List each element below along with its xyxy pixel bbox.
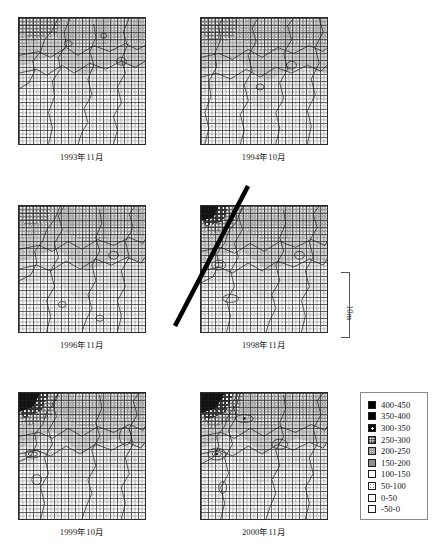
legend-swatch-icon <box>368 470 376 478</box>
legend-label: 100-150 <box>381 469 410 479</box>
panel-caption-1994: 1994年10月 <box>200 150 328 162</box>
legend-label: 50-100 <box>381 481 406 491</box>
map-canvas-1996 <box>18 205 146 333</box>
contour-map-figure: 1993年11月 1994年10月 <box>0 0 436 559</box>
legend-label: 250-300 <box>381 435 410 445</box>
legend-swatch-icon <box>368 459 376 467</box>
legend-item: 250-300 <box>368 434 420 446</box>
map-panel-1994: 1994年10月 <box>200 17 328 145</box>
legend-label: 350-400 <box>381 411 410 421</box>
legend-item: 0-50 <box>368 492 420 504</box>
legend-label: -50-0 <box>381 504 400 514</box>
legend-swatch-icon <box>368 494 376 502</box>
legend-item: 100-150 <box>368 469 420 481</box>
panel-caption-2000: 2000年11月 <box>200 525 328 537</box>
legend-item: 350-400 <box>368 411 420 423</box>
contour-lines <box>19 393 145 519</box>
map-panel-1996: 1996年11月 <box>18 205 146 333</box>
map-canvas-1993 <box>18 17 146 145</box>
map-panel-2000: 2000年11月 <box>200 392 328 520</box>
map-canvas-1994 <box>200 17 328 145</box>
map-canvas-1999 <box>18 392 146 520</box>
legend-item: -50-0 <box>368 503 420 515</box>
legend-label: 200-250 <box>381 446 410 456</box>
legend-swatch-icon <box>368 447 376 455</box>
legend-item: 300-350 <box>368 422 420 434</box>
legend-label: 400-450 <box>381 400 410 410</box>
legend-swatch-icon <box>368 436 376 444</box>
legend-label: 150-200 <box>381 458 410 468</box>
legend-label: 0-50 <box>381 493 397 503</box>
contour-lines <box>201 18 327 144</box>
panel-caption-1996: 1996年11月 <box>18 338 146 350</box>
legend-item: 150-200 <box>368 457 420 469</box>
contour-lines <box>201 393 327 519</box>
legend-item: 50-100 <box>368 480 420 492</box>
legend-swatch-icon <box>368 424 376 432</box>
legend-item: 200-250 <box>368 445 420 457</box>
contour-lines <box>19 206 145 332</box>
legend-item: 400-450 <box>368 399 420 411</box>
panel-caption-1998: 1998年11月 <box>200 338 328 350</box>
legend-label: 300-350 <box>381 423 410 433</box>
map-panel-1998: 1998年11月 <box>200 205 328 333</box>
scale-bar-label: 10m <box>345 305 355 320</box>
legend-swatch-icon <box>368 401 376 409</box>
legend-swatch-icon <box>368 505 376 513</box>
map-panel-1993: 1993年11月 <box>18 17 146 145</box>
map-canvas-1998 <box>200 205 328 333</box>
contour-lines <box>201 206 327 332</box>
scale-bar: 10m <box>341 272 367 338</box>
legend: 400-450 350-400 300-350 250-300 200-250 … <box>360 392 428 520</box>
legend-swatch-icon <box>368 412 376 420</box>
panel-caption-1993: 1993年11月 <box>18 150 146 162</box>
contour-lines <box>19 18 145 144</box>
legend-swatch-icon <box>368 482 376 490</box>
map-panel-1999: 1999年10月 <box>18 392 146 520</box>
panel-caption-1999: 1999年10月 <box>18 525 146 537</box>
map-canvas-2000 <box>200 392 328 520</box>
